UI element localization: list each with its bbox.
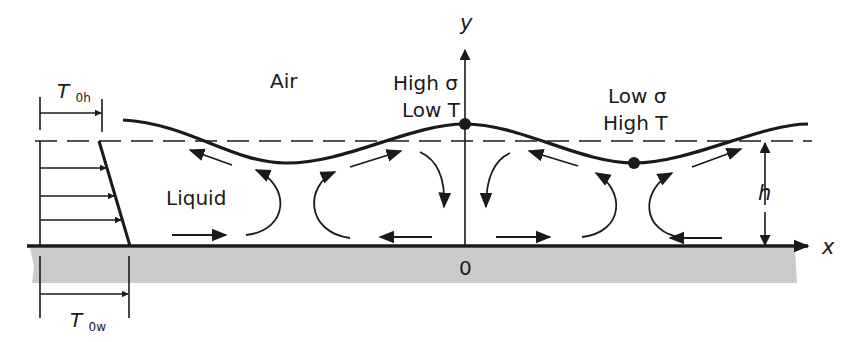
marangoni-convection-diagram: y x 0 Air Liquid High σ Low T Low σ High…: [0, 0, 857, 342]
t0w-sub: 0w: [89, 320, 107, 334]
trough-annotation-temp: High T: [603, 111, 668, 135]
peak-annotation-temp: Low T: [402, 98, 461, 122]
t0h-main: T: [57, 79, 71, 103]
temperature-profile: [40, 141, 130, 246]
origin-label: 0: [459, 256, 472, 280]
thickness-label: h: [758, 181, 771, 205]
downwelling-arrow-1: [420, 152, 444, 207]
upwelling-arrow-4: [649, 173, 683, 238]
peak-sigma-text: High σ: [393, 71, 458, 95]
peak-temp-text: Low T: [402, 98, 461, 122]
upwelling-arrow-2: [314, 172, 350, 238]
y-axis-label: y: [459, 11, 473, 35]
surface-flow-arrow-1: [190, 150, 232, 165]
trough-sigma-text: Low σ: [608, 84, 667, 108]
top-temperature-dimension: T 0h: [40, 79, 102, 132]
trough-temp-text: High T: [603, 111, 668, 135]
x-axis-label: x: [821, 235, 835, 259]
upwelling-arrow-1: [246, 170, 280, 235]
liquid-label: Liquid: [166, 186, 226, 210]
peak-annotation-sigma: High σ: [393, 71, 458, 95]
t0w-label: T 0w: [70, 308, 106, 334]
t0h-label: T 0h: [57, 79, 91, 105]
t0h-sub: 0h: [76, 91, 91, 105]
wall-flow-arrows: [172, 235, 722, 238]
t0w-main: T: [70, 308, 84, 332]
surface-flow-arrow-3: [529, 151, 578, 166]
surface-peak-point: [459, 118, 471, 130]
upwelling-arrow-3: [582, 173, 616, 237]
downwelling-arrow-2: [486, 153, 510, 207]
surface-trough-point: [628, 157, 640, 169]
air-label: Air: [270, 69, 298, 93]
trough-annotation-sigma: Low σ: [608, 84, 667, 108]
surface-flow-arrow-2: [350, 151, 401, 167]
solid-substrate: [30, 248, 797, 283]
profile-gradient-line: [99, 141, 130, 246]
